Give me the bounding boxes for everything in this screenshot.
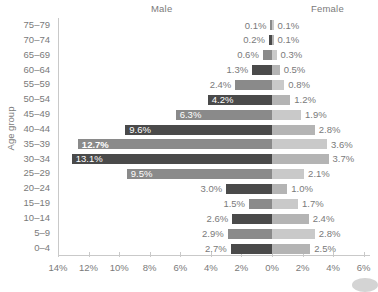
- male-value-label: 2.9%: [58, 228, 224, 240]
- pyramid-row: 13.1%3.7%: [58, 152, 370, 167]
- male-value-label: 9.5%: [131, 168, 153, 180]
- pyramid-row: 0.2%0.1%: [58, 33, 370, 48]
- x-axis-tick-label: 6%: [173, 262, 187, 273]
- female-bar: [272, 95, 290, 105]
- x-axis-tick-label: 10%: [110, 262, 129, 273]
- female-column-header: Female: [311, 3, 344, 14]
- age-group-label: 60–64: [14, 63, 54, 78]
- x-axis-tick-label: 4%: [204, 262, 218, 273]
- female-bar: [272, 244, 310, 254]
- age-group-label: 40–44: [14, 122, 54, 137]
- male-value-label: 0.2%: [58, 34, 265, 46]
- age-group-label: 35–39: [14, 137, 54, 152]
- male-bar: [232, 214, 272, 224]
- pyramid-row: 0.1%0.1%: [58, 18, 370, 33]
- male-value-label: 9.6%: [129, 124, 151, 136]
- female-value-label: 0.5%: [284, 64, 306, 76]
- x-axis-tick-label: 6%: [357, 262, 371, 273]
- x-axis-tick-labels: 14%12%10%8%6%4%2%0%2%4%6%: [58, 262, 370, 278]
- male-column-header: Male: [151, 3, 172, 14]
- female-bar: [272, 199, 298, 209]
- x-axis-tick-label: 4%: [326, 262, 340, 273]
- female-bar: [272, 50, 277, 60]
- female-value-label: 2.4%: [313, 213, 335, 225]
- x-axis-tick-label: 14%: [48, 262, 67, 273]
- female-bar: [272, 214, 309, 224]
- pyramid-row: 2.9%2.8%: [58, 226, 370, 241]
- female-bar: [272, 65, 280, 75]
- female-value-label: 1.7%: [302, 198, 324, 210]
- female-bar: [272, 184, 287, 194]
- age-group-label: 55–59: [14, 77, 54, 92]
- pyramid-row: 6.3%1.9%: [58, 107, 370, 122]
- female-value-label: 2.8%: [319, 228, 341, 240]
- male-value-label: 1.5%: [58, 198, 245, 210]
- corner-decoration: [352, 278, 378, 292]
- female-value-label: 2.8%: [319, 124, 341, 136]
- female-bar: [272, 110, 301, 120]
- male-value-label: 3.0%: [58, 183, 222, 195]
- age-group-label: 70–74: [14, 33, 54, 48]
- pyramid-row: 2.7%2.5%: [58, 241, 370, 256]
- male-value-label: 6.3%: [180, 109, 202, 121]
- female-bar: [272, 169, 304, 179]
- female-value-label: 2.1%: [308, 168, 330, 180]
- age-group-label: 5–9: [14, 226, 54, 241]
- age-group-label: 50–54: [14, 92, 54, 107]
- female-value-label: 0.8%: [288, 79, 310, 91]
- age-group-label: 0–4: [14, 241, 54, 256]
- age-group-label: 25–29: [14, 166, 54, 181]
- female-bar: [272, 125, 315, 135]
- pyramid-row: 12.7%3.6%: [58, 137, 370, 152]
- age-group-label: 10–14: [14, 211, 54, 226]
- male-bar: [263, 50, 272, 60]
- age-group-label: 65–69: [14, 48, 54, 63]
- female-bar: [272, 154, 329, 164]
- x-axis-tick-label: 0%: [265, 262, 279, 273]
- pyramid-row: 9.5%2.1%: [58, 167, 370, 182]
- female-value-label: 0.3%: [281, 49, 303, 61]
- age-group-label: 15–19: [14, 196, 54, 211]
- female-bar: [272, 80, 284, 90]
- male-bar: [231, 244, 272, 254]
- male-bar: [235, 80, 272, 90]
- female-value-label: 1.9%: [305, 109, 327, 121]
- male-value-label: 2.7%: [58, 243, 227, 255]
- age-group-label: 20–24: [14, 181, 54, 196]
- female-bar: [272, 35, 274, 45]
- male-bar: [228, 229, 272, 239]
- female-value-label: 0.1%: [278, 20, 300, 32]
- female-value-label: 1.0%: [291, 183, 313, 195]
- female-bar: [272, 20, 274, 30]
- pyramid-row: 0.6%0.3%: [58, 48, 370, 63]
- male-value-label: 1.3%: [58, 64, 248, 76]
- male-value-label: 0.1%: [58, 20, 266, 32]
- x-axis-tick-label: 2%: [235, 262, 249, 273]
- female-bar: [272, 229, 315, 239]
- age-group-label: 30–34: [14, 152, 54, 167]
- plot-area: 0.1%0.1%0.2%0.1%0.6%0.3%1.3%0.5%2.4%0.8%…: [58, 18, 370, 256]
- male-value-label: 2.6%: [58, 213, 228, 225]
- male-value-label: 0.6%: [58, 49, 259, 61]
- pyramid-row: 1.5%1.7%: [58, 197, 370, 212]
- male-value-label: 4.2%: [212, 94, 234, 106]
- pyramid-row: 9.6%2.8%: [58, 122, 370, 137]
- pyramid-row: 3.0%1.0%: [58, 182, 370, 197]
- pyramid-row: 2.4%0.8%: [58, 78, 370, 93]
- female-bar: [272, 139, 327, 149]
- male-bar: [249, 199, 272, 209]
- female-value-label: 3.6%: [331, 139, 353, 151]
- male-bar: [252, 65, 272, 75]
- female-value-label: 1.2%: [294, 94, 316, 106]
- female-value-label: 2.5%: [314, 243, 336, 255]
- age-group-axis: 75–7970–7465–6960–6455–5950–5445–4940–44…: [14, 18, 54, 256]
- male-value-label: 13.1%: [76, 153, 103, 165]
- age-group-label: 45–49: [14, 107, 54, 122]
- x-axis-tick-label: 8%: [143, 262, 157, 273]
- female-value-label: 0.1%: [278, 34, 300, 46]
- pyramid-row: 4.2%1.2%: [58, 92, 370, 107]
- male-value-label: 12.7%: [82, 139, 109, 151]
- x-axis-tick-label: 12%: [79, 262, 98, 273]
- age-group-label: 75–79: [14, 18, 54, 33]
